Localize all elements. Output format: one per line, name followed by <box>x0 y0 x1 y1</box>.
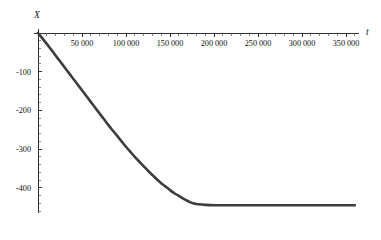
x-axis-tick-label: 100 000 <box>113 39 140 48</box>
x-axis-title: t <box>366 27 369 37</box>
y-axis-tick-labels: -100-200-300-400 <box>16 68 31 193</box>
x-axis-tick-label: 50 000 <box>71 39 94 48</box>
y-axis-tick-label: -400 <box>16 184 31 193</box>
y-axis-title: X <box>33 10 41 20</box>
y-axis-tick-label: -200 <box>16 106 31 115</box>
x-axis-tick-label: 250 000 <box>245 39 272 48</box>
x-axis-major-ticks <box>82 33 346 37</box>
y-axis-tick-label: -100 <box>16 68 31 77</box>
y-axis-major-ticks <box>38 72 42 188</box>
data-curve <box>38 33 355 205</box>
x-axis-tick-label: 150 000 <box>157 39 184 48</box>
plot-figure: 50 000100 000150 000200 000250 000300 00… <box>0 0 381 240</box>
x-axis-tick-label: 300 000 <box>289 39 316 48</box>
y-axis-tick-label: -300 <box>16 145 31 154</box>
data-series-group <box>38 33 355 205</box>
x-axis-tick-labels: 50 000100 000150 000200 000250 000300 00… <box>71 39 360 48</box>
chart-canvas: 50 000100 000150 000200 000250 000300 00… <box>0 0 381 240</box>
x-axis-tick-label: 350 000 <box>333 39 360 48</box>
x-axis-tick-label: 200 000 <box>201 39 228 48</box>
